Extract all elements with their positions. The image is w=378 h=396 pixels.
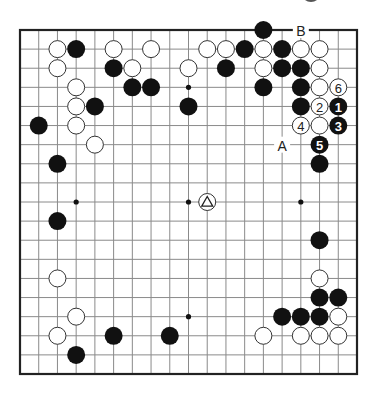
black-stone: [105, 59, 123, 77]
star-point: [186, 314, 191, 319]
white-stone: [311, 327, 328, 344]
position-label-a: A: [277, 138, 287, 154]
black-stone: [142, 78, 160, 96]
white-stone: [199, 41, 216, 58]
black-stone: [161, 327, 179, 345]
white-stone: [292, 41, 309, 58]
move-number: 2: [316, 100, 323, 115]
white-stone: [311, 41, 328, 58]
white-stone: [68, 79, 85, 96]
move-number: 4: [297, 119, 304, 134]
black-stone: [217, 59, 235, 77]
white-stone: [49, 270, 66, 287]
white-stone: [311, 60, 328, 77]
go-board-diagram: AB 123456: [0, 0, 378, 396]
black-stone: [311, 289, 329, 307]
black-stone: [292, 308, 310, 326]
white-stone: [49, 60, 66, 77]
black-stone: [273, 59, 291, 77]
black-stone: [311, 155, 329, 173]
white-stone: [255, 327, 272, 344]
black-stone: [180, 97, 198, 115]
partial-stone-cropped: [301, 0, 321, 2]
white-stone: [330, 308, 347, 325]
star-point: [74, 199, 79, 204]
white-stone: [49, 41, 66, 58]
white-stone: [330, 327, 347, 344]
white-stone: [68, 98, 85, 115]
black-stone: [67, 346, 85, 364]
white-stone: [180, 60, 197, 77]
black-stone: [292, 59, 310, 77]
move-number: 3: [335, 119, 342, 134]
move-number: 6: [335, 81, 342, 96]
black-stone: [254, 78, 272, 96]
white-stone: [143, 41, 160, 58]
white-stone: [217, 41, 234, 58]
white-stone: [49, 327, 66, 344]
black-stone: [30, 117, 48, 135]
position-label-b: B: [296, 23, 305, 39]
star-point: [186, 199, 191, 204]
white-stone: [255, 60, 272, 77]
move-number: 1: [335, 100, 342, 115]
black-stone: [105, 327, 123, 345]
black-stone: [254, 21, 272, 39]
white-stone: [311, 117, 328, 134]
black-stone: [292, 97, 310, 115]
white-stone: [124, 60, 141, 77]
white-stone: [255, 41, 272, 58]
white-stone: [86, 136, 103, 153]
star-point: [298, 199, 303, 204]
black-stone: [273, 308, 291, 326]
black-stone: [48, 212, 66, 230]
white-stone: [68, 308, 85, 325]
black-stone: [311, 231, 329, 249]
black-stone: [311, 308, 329, 326]
white-stone: [105, 41, 122, 58]
black-stone: [123, 78, 141, 96]
black-stone: [273, 40, 291, 58]
black-stone: [86, 97, 104, 115]
black-stone: [67, 40, 85, 58]
white-stone: [68, 117, 85, 134]
move-number: 5: [316, 138, 323, 153]
black-stone: [292, 78, 310, 96]
white-stone: [292, 327, 309, 344]
white-stone: [311, 270, 328, 287]
star-point: [186, 85, 191, 90]
white-stone: [311, 79, 328, 96]
black-stone: [48, 155, 66, 173]
black-stone: [236, 40, 254, 58]
black-stone: [329, 289, 347, 307]
